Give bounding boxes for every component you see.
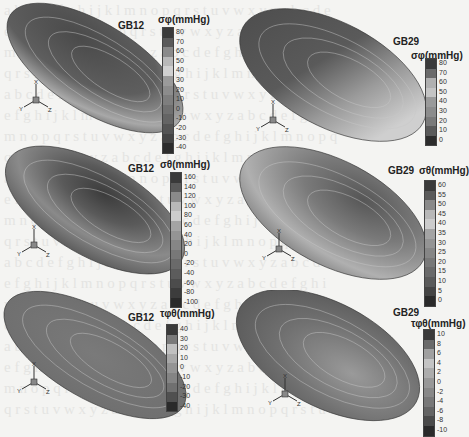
legend-swatch [424, 229, 436, 239]
legend-swatch [170, 250, 182, 260]
legend-swatch [162, 47, 174, 57]
svg-text:Y: Y [19, 106, 23, 112]
legend-tick: 80 [184, 210, 198, 220]
legend-swatch [423, 330, 435, 340]
legend-swatch [162, 105, 174, 115]
legend-tick: 20 [176, 85, 186, 95]
figure-panel-e: GB12 τφθ(mmHg) 403020100-10-20-30-40 X Y… [0, 290, 232, 433]
svg-text:Z: Z [285, 127, 289, 133]
legend-tick: 40 [176, 65, 186, 75]
color-legend: 403020100-10-20-30-40 [166, 324, 178, 412]
legend-tick: 10 [438, 276, 446, 286]
axis-triad-icon: X Y Z [267, 372, 303, 408]
legend-ticks: 80706050403020100-10-20-30-40 [176, 27, 186, 152]
legend-swatch [166, 325, 178, 335]
axis-triad-icon: X Y Z [255, 98, 291, 134]
legend-tick: 60 [439, 77, 447, 87]
axis-triad-icon: X Y Z [16, 223, 52, 259]
legend-swatch [162, 124, 174, 134]
legend-swatches [170, 172, 182, 308]
legend-swatches [166, 324, 178, 412]
svg-text:Y: Y [256, 126, 260, 132]
legend-tick: 80 [439, 58, 447, 68]
legend-swatch [162, 114, 174, 124]
panel-title: GB29 [393, 307, 419, 318]
legend-ticks: 1086420-2-4-6-8-10 [437, 329, 447, 435]
variable-label: σθ(mmHg) [160, 159, 210, 170]
legend-swatch [170, 173, 182, 183]
legend-tick: 25 [438, 247, 446, 257]
legend-ticks: 160140120100806040200-20-40-60-80-100 [184, 172, 198, 306]
legend-tick: -40 [180, 401, 190, 411]
legend-tick: 35 [438, 228, 446, 238]
svg-text:X: X [32, 361, 36, 367]
svg-text:Z: Z [46, 389, 50, 395]
panel-title: GB12 [128, 163, 154, 174]
legend-tick: 0 [184, 249, 198, 259]
legend-swatches [162, 27, 174, 154]
legend-swatch [423, 388, 435, 398]
legend-swatch [424, 258, 436, 268]
legend-swatch [424, 181, 436, 191]
legend-tick: -60 [184, 278, 198, 288]
svg-text:Z: Z [46, 252, 50, 258]
legend-swatch [425, 88, 437, 98]
legend-tick: -6 [437, 406, 447, 416]
legend-tick: 20 [180, 343, 190, 353]
variable-label: σθ(mmHg) [419, 165, 469, 176]
legend-ticks: 605550454035302520151050 [438, 180, 446, 305]
legend-swatch [425, 59, 437, 69]
panel-title: GB29 [388, 165, 414, 176]
legend-tick: -30 [176, 133, 186, 143]
variable-label: σφ(mmHg) [158, 14, 210, 25]
legend-tick: -20 [180, 382, 190, 392]
legend-swatch [162, 95, 174, 105]
legend-tick: 0 [180, 362, 190, 372]
svg-text:Z: Z [48, 107, 52, 113]
color-legend: 80706050403020100 [425, 58, 437, 146]
legend-tick: 15 [438, 266, 446, 276]
legend-swatch [162, 66, 174, 76]
legend-tick: 20 [438, 257, 446, 267]
legend-swatch [423, 426, 435, 436]
legend-swatches [423, 329, 435, 437]
legend-swatch [424, 191, 436, 201]
legend-tick: 30 [180, 334, 190, 344]
legend-tick: 160 [184, 172, 198, 182]
legend-tick: -40 [184, 268, 198, 278]
legend-tick: 120 [184, 191, 198, 201]
legend-swatch [162, 57, 174, 67]
figure-panel-a: GB12 σφ(mmHg) 80706050403020100-10-20-30… [0, 0, 232, 143]
svg-text:X: X [283, 373, 287, 379]
variable-label: τφθ(mmHg) [411, 318, 466, 329]
legend-tick: 20 [439, 116, 447, 126]
axis-triad-icon: X Y Z [261, 227, 297, 263]
svg-text:X: X [32, 224, 36, 230]
legend-swatch [166, 402, 178, 412]
legend-swatch [166, 392, 178, 402]
legend-swatch [425, 97, 437, 107]
legend-swatch [424, 248, 436, 258]
legend-tick: 100 [184, 201, 198, 211]
legend-tick: 40 [438, 218, 446, 228]
legend-tick: 50 [438, 199, 446, 209]
legend-swatch [425, 117, 437, 127]
legend-swatch [423, 368, 435, 378]
legend-tick: 10 [437, 329, 447, 339]
legend-swatch [425, 136, 437, 146]
legend-tick: 30 [439, 106, 447, 116]
legend-swatch [170, 183, 182, 193]
legend-swatch [424, 267, 436, 277]
legend-swatch [162, 28, 174, 38]
legend-swatch [170, 231, 182, 241]
legend-swatch [162, 86, 174, 96]
legend-swatch [166, 335, 178, 345]
legend-swatch [423, 349, 435, 359]
legend-swatch [170, 269, 182, 279]
legend-ticks: 403020100-10-20-30-40 [180, 324, 190, 410]
legend-tick: 45 [438, 209, 446, 219]
legend-tick: 2 [437, 367, 447, 377]
legend-tick: 20 [184, 239, 198, 249]
legend-tick: -10 [180, 372, 190, 382]
legend-swatch [424, 200, 436, 210]
